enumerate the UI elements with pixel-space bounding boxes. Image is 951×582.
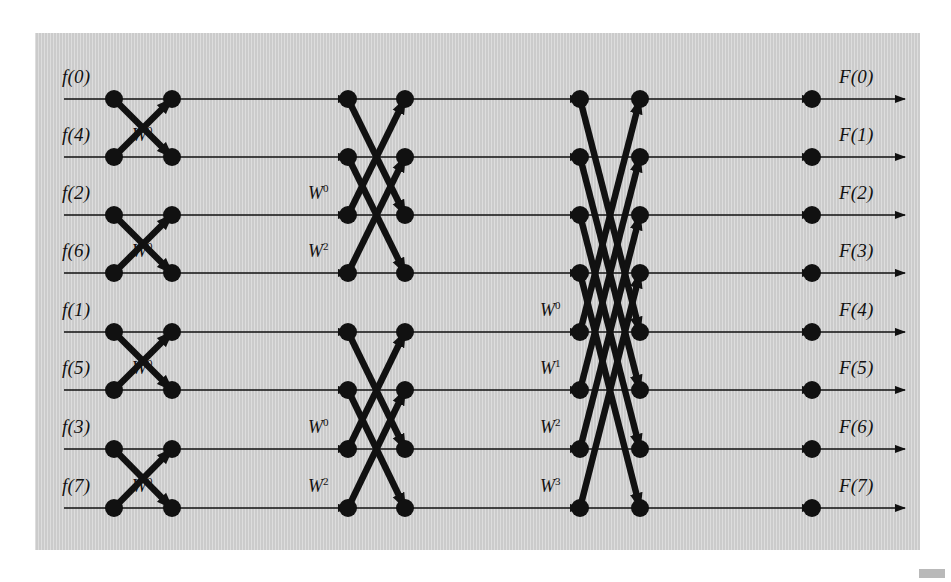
twiddle-label-stage2-0: W0 <box>308 184 329 202</box>
node-r4-c5 <box>571 264 589 282</box>
node-r3-c3 <box>339 206 357 224</box>
node-r6-c1 <box>105 381 123 399</box>
node-r6-c3 <box>339 381 357 399</box>
node-r7-c1 <box>105 440 123 458</box>
node-r5-c3 <box>339 323 357 341</box>
node-r6-c7 <box>803 381 821 399</box>
node-r5-c5 <box>571 323 589 341</box>
node-r3-c6 <box>631 206 649 224</box>
twiddle-label-stage3-0: W0 <box>540 301 561 319</box>
node-r2-c7 <box>803 148 821 166</box>
node-r7-c2 <box>163 440 181 458</box>
input-label-0: f(0) <box>62 67 90 86</box>
twiddle-base: W <box>540 358 555 378</box>
twiddle-label-stage2-3: W2 <box>308 477 329 495</box>
twiddle-label-stage2-2: W0 <box>308 418 329 436</box>
node-r1-c2 <box>163 90 181 108</box>
twiddle-label-stage1-3: W0 <box>132 477 153 495</box>
node-r4-c6 <box>631 264 649 282</box>
node-r5-c1 <box>105 323 123 341</box>
node-r4-c4 <box>396 264 414 282</box>
node-group <box>105 90 821 517</box>
node-r5-c7 <box>803 323 821 341</box>
node-r5-c6 <box>631 323 649 341</box>
twiddle-base: W <box>132 476 147 496</box>
node-r1-c5 <box>571 90 589 108</box>
node-r2-c5 <box>571 148 589 166</box>
twiddle-label-stage2-1: W2 <box>308 242 329 260</box>
twiddle-base: W <box>308 183 323 203</box>
node-r2-c2 <box>163 148 181 166</box>
edge-group <box>64 99 905 508</box>
node-r6-c6 <box>631 381 649 399</box>
twiddle-exponent: 0 <box>555 299 561 311</box>
twiddle-base: W <box>132 125 147 145</box>
twiddle-exponent: 3 <box>555 475 561 487</box>
twiddle-exponent: 0 <box>323 416 329 428</box>
twiddle-base: W <box>540 300 555 320</box>
twiddle-exponent: 0 <box>147 240 153 252</box>
twiddle-label-stage1-0: W0 <box>132 126 153 144</box>
twiddle-exponent: 2 <box>323 240 329 252</box>
output-label-5: F(5) <box>839 358 874 377</box>
input-label-2: f(2) <box>62 183 90 202</box>
output-label-3: F(3) <box>839 241 874 260</box>
node-r5-c2 <box>163 323 181 341</box>
output-label-2: F(2) <box>839 183 874 202</box>
node-r1-c1 <box>105 90 123 108</box>
node-r2-c3 <box>339 148 357 166</box>
twiddle-label-stage3-1: W1 <box>540 359 561 377</box>
figure-canvas: f(0)f(4)f(2)f(6)f(1)f(5)f(3)f(7)F(0)F(1)… <box>0 0 951 582</box>
output-label-7: F(7) <box>839 476 874 495</box>
twiddle-base: W <box>308 241 323 261</box>
twiddle-exponent: 0 <box>323 182 329 194</box>
twiddle-base: W <box>540 476 555 496</box>
node-r1-c3 <box>339 90 357 108</box>
corner-mark <box>919 569 945 578</box>
input-label-4: f(1) <box>62 300 90 319</box>
node-r2-c6 <box>631 148 649 166</box>
output-label-0: F(0) <box>839 67 874 86</box>
node-r1-c6 <box>631 90 649 108</box>
node-r7-c5 <box>571 440 589 458</box>
node-r8-c7 <box>803 499 821 517</box>
node-r6-c2 <box>163 381 181 399</box>
node-r8-c5 <box>571 499 589 517</box>
node-r1-c4 <box>396 90 414 108</box>
node-r3-c1 <box>105 206 123 224</box>
twiddle-base: W <box>132 241 147 261</box>
node-r7-c7 <box>803 440 821 458</box>
node-r8-c2 <box>163 499 181 517</box>
node-r3-c4 <box>396 206 414 224</box>
node-r8-c6 <box>631 499 649 517</box>
node-r7-c3 <box>339 440 357 458</box>
node-r3-c7 <box>803 206 821 224</box>
node-r7-c4 <box>396 440 414 458</box>
twiddle-exponent: 2 <box>555 416 561 428</box>
node-r2-c4 <box>396 148 414 166</box>
node-r4-c2 <box>163 264 181 282</box>
node-r7-c6 <box>631 440 649 458</box>
twiddle-label-stage3-3: W3 <box>540 477 561 495</box>
node-r1-c7 <box>803 90 821 108</box>
node-r6-c4 <box>396 381 414 399</box>
twiddle-base: W <box>540 417 555 437</box>
input-label-5: f(5) <box>62 358 90 377</box>
twiddle-exponent: 2 <box>323 475 329 487</box>
node-r4-c1 <box>105 264 123 282</box>
node-r8-c3 <box>339 499 357 517</box>
twiddle-label-stage3-2: W2 <box>540 418 561 436</box>
twiddle-label-stage1-1: W0 <box>132 242 153 260</box>
twiddle-exponent: 0 <box>147 124 153 136</box>
node-r3-c5 <box>571 206 589 224</box>
node-r4-c7 <box>803 264 821 282</box>
node-r3-c2 <box>163 206 181 224</box>
output-label-6: F(6) <box>839 417 874 436</box>
node-r8-c1 <box>105 499 123 517</box>
node-r5-c4 <box>396 323 414 341</box>
input-label-6: f(3) <box>62 417 90 436</box>
twiddle-base: W <box>132 358 147 378</box>
twiddle-base: W <box>308 417 323 437</box>
output-label-1: F(1) <box>839 125 874 144</box>
input-label-1: f(4) <box>62 125 90 144</box>
